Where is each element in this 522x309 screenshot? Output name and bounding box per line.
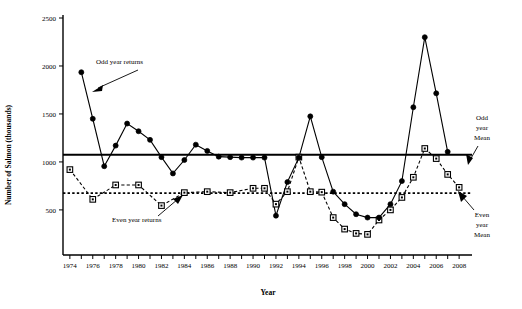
data-point-odd-1991 <box>262 155 267 160</box>
data-point-even-2000 <box>365 232 371 238</box>
x-tick-label-2008: 2008 <box>452 262 467 270</box>
data-point-odd-1996 <box>319 155 324 160</box>
y-axis-title: Number of Salmon (thousands) <box>4 104 13 205</box>
data-point-odd-1993 <box>285 180 290 185</box>
data-point-odd-2002 <box>388 202 393 207</box>
x-tick-label-2006: 2006 <box>429 262 444 270</box>
data-point-odd-1984 <box>182 158 187 163</box>
x-tick-label-1980: 1980 <box>132 262 147 270</box>
data-point-odd-1995 <box>308 114 313 119</box>
annotation-odd-mean-line3: Mean <box>474 134 490 142</box>
x-tick-label-1996: 1996 <box>315 262 330 270</box>
data-point-odd-1975 <box>79 70 84 75</box>
data-point-even-1984 <box>182 190 188 196</box>
data-point-odd-1989 <box>239 155 244 160</box>
annotation-odd-year-mean: Odd year Mean <box>466 114 490 165</box>
x-tick-label-1976: 1976 <box>86 262 101 270</box>
y-tick-label-2000: 2000 <box>42 63 57 71</box>
data-point-odd-1981 <box>148 137 153 142</box>
data-point-even-2003 <box>399 195 405 201</box>
x-tick-label-2002: 2002 <box>383 262 398 270</box>
data-point-odd-1986 <box>205 148 210 153</box>
data-point-even-1998 <box>342 226 348 232</box>
y-tick-label-500: 500 <box>46 207 57 215</box>
y-axis-tick-labels: 5001000150020002500 <box>42 15 57 215</box>
data-point-odd-1988 <box>228 155 233 160</box>
data-point-even-1996 <box>319 189 325 195</box>
x-tick-label-1984: 1984 <box>177 262 192 270</box>
data-point-odd-2000 <box>365 215 370 220</box>
annotation-odd-year-returns: Odd year returns <box>92 58 143 92</box>
annotation-odd-returns-arrow-line <box>98 70 138 88</box>
data-point-odd-2003 <box>399 179 404 184</box>
data-point-even-2008 <box>456 185 462 191</box>
annotation-odd-mean-line2: year <box>476 124 489 132</box>
data-point-odd-1982 <box>159 155 164 160</box>
x-tick-label-1974: 1974 <box>63 262 78 270</box>
data-point-even-1976 <box>90 197 96 203</box>
data-point-even-1995 <box>308 189 314 195</box>
data-point-odd-1980 <box>136 129 141 134</box>
data-point-odd-1983 <box>170 171 175 176</box>
data-point-even-1988 <box>227 190 233 196</box>
data-point-odd-1979 <box>125 121 130 126</box>
x-tick-label-1998: 1998 <box>338 262 353 270</box>
x-axis-tick-labels: 1974197619781980198219841986198819901992… <box>63 262 467 270</box>
data-point-odd-2007 <box>445 149 450 154</box>
data-point-even-1980 <box>136 182 142 188</box>
data-point-odd-2001 <box>376 215 381 220</box>
data-point-even-1986 <box>204 189 210 195</box>
annotation-even-year-mean: Even year Mean <box>458 191 490 239</box>
y-tick-label-1500: 1500 <box>42 111 57 119</box>
data-point-even-1990 <box>250 186 256 192</box>
x-tick-label-1988: 1988 <box>223 262 238 270</box>
data-point-even-1978 <box>113 182 119 188</box>
x-tick-label-1986: 1986 <box>200 262 215 270</box>
data-point-even-2006 <box>433 156 439 162</box>
data-point-odd-1992 <box>273 213 278 218</box>
data-point-odd-1999 <box>354 212 359 217</box>
data-point-even-1974 <box>67 167 73 173</box>
data-point-odd-1976 <box>90 116 95 121</box>
data-point-even-1999 <box>353 231 359 237</box>
data-point-odd-1977 <box>102 164 107 169</box>
data-point-even-1982 <box>159 203 165 209</box>
x-tick-label-1978: 1978 <box>109 262 124 270</box>
annotation-even-mean-line3: Mean <box>474 231 490 239</box>
y-tick-label-1000: 1000 <box>42 159 57 167</box>
data-point-odd-1987 <box>216 154 221 159</box>
data-point-even-2005 <box>422 146 428 152</box>
x-axis-title: Year <box>261 288 277 297</box>
data-point-odd-2005 <box>422 35 427 40</box>
salmon-returns-chart: 5001000150020002500 19741976197819801982… <box>0 0 522 309</box>
annotation-odd-mean-line1: Odd <box>476 114 489 122</box>
annotation-odd-returns-arrowhead <box>92 85 103 92</box>
data-point-odd-2004 <box>411 105 416 110</box>
data-point-even-2002 <box>388 207 394 213</box>
y-tick-label-2500: 2500 <box>42 15 57 23</box>
x-tick-label-1992: 1992 <box>269 262 284 270</box>
annotation-even-year-returns-label: Even year returns <box>112 216 162 224</box>
x-tick-label-1982: 1982 <box>154 262 169 270</box>
data-point-even-1997 <box>330 215 336 221</box>
annotation-even-mean-line2: year <box>476 221 489 229</box>
chart-canvas: 5001000150020002500 19741976197819801982… <box>0 0 522 309</box>
data-point-even-2004 <box>411 174 417 180</box>
data-point-even-1993 <box>285 189 291 195</box>
data-point-even-2007 <box>445 172 451 178</box>
data-point-even-1992 <box>273 201 279 207</box>
data-point-odd-1990 <box>251 155 256 160</box>
annotation-odd-year-returns-label: Odd year returns <box>96 58 143 66</box>
data-point-odd-1978 <box>113 143 118 148</box>
data-point-odd-1997 <box>331 189 336 194</box>
x-tick-label-2004: 2004 <box>406 262 421 270</box>
data-point-even-1991 <box>262 186 268 192</box>
data-point-odd-2006 <box>434 91 439 96</box>
annotation-even-mean-line1: Even <box>475 211 490 219</box>
x-tick-label-1990: 1990 <box>246 262 261 270</box>
x-tick-label-2000: 2000 <box>361 262 376 270</box>
x-tick-label-1994: 1994 <box>292 262 307 270</box>
data-point-odd-1998 <box>342 202 347 207</box>
data-point-odd-1994 <box>296 155 301 160</box>
data-point-odd-1985 <box>193 142 198 147</box>
